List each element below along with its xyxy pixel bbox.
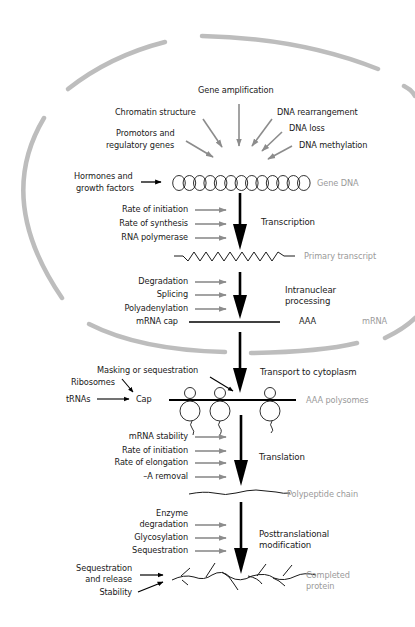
membrane-arc-bottom-right — [385, 318, 415, 338]
label-rate-of-initiation: Rate of initiation — [122, 204, 188, 215]
stage-mrna: mRNA — [362, 316, 387, 327]
arrow-promotors — [186, 141, 213, 157]
ribosomes — [180, 388, 280, 437]
stage-primary-transcript: Primary transcript — [304, 251, 376, 262]
stage-completed-protein-2: protein — [306, 581, 334, 592]
label-rate-of-synthesis: Rate of synthesis — [119, 218, 188, 229]
arrow-ribosomes — [122, 379, 133, 392]
label-rate-of-elongation: Rate of elongation — [115, 457, 188, 468]
label-sequestration-protein: Sequestration — [76, 563, 132, 574]
label-aaa-tail: AAA — [299, 316, 316, 327]
label-dna-loss: DNA loss — [289, 123, 325, 134]
label-mrna-stability: mRNA stability — [129, 431, 188, 442]
process-transcription: Transcription — [261, 217, 315, 228]
arrowhead-translation — [234, 460, 248, 486]
ribosome-1-large — [180, 401, 200, 421]
process-posttranslational-1: Posttranslational — [259, 529, 329, 540]
polypeptide-chain — [189, 490, 290, 495]
ribosome-1-peptide — [191, 421, 194, 435]
process-posttranslational-2: modification — [259, 540, 311, 551]
membrane-arc-bottom-middle — [251, 343, 357, 353]
membrane-arc-bottom-left — [89, 324, 225, 352]
ribosome-1-small — [185, 388, 196, 399]
label-splicing: Splicing — [157, 289, 188, 300]
transport-arrows — [97, 377, 233, 399]
process-transport: Transport to cytoplasm — [260, 367, 357, 378]
label-promotors: Promotors and — [116, 128, 175, 139]
stage-polypeptide-chain: Polypeptide chain — [287, 489, 358, 500]
arrow-dna-rearrangement — [252, 119, 272, 146]
label-chromatin-structure: Chromatin structure — [115, 107, 196, 118]
label-sequestration: Sequestration — [132, 545, 188, 556]
label-regulatory-genes: regulatory genes — [106, 140, 174, 151]
main-flow-arrows — [233, 193, 248, 574]
arrow-dna-loss — [262, 132, 282, 151]
gene-dna-helix — [173, 176, 310, 191]
label-ribosomes: Ribosomes — [71, 377, 115, 388]
membrane-arc-left — [23, 118, 62, 298]
arrow-stability — [138, 582, 163, 592]
ribosome-3-large — [260, 401, 280, 421]
label-rna-polymerase: RNA polymerase — [121, 232, 188, 243]
label-mrna-cap: mRNA cap — [136, 316, 178, 327]
label-and-release: and release — [85, 574, 132, 585]
ribosome-2-small — [215, 388, 226, 399]
label-gene-amplification: Gene amplification — [198, 85, 274, 96]
membrane-arc-top — [202, 36, 378, 69]
process-intranuclear-1: Intranuclear — [285, 285, 336, 296]
stage-gene-dna: Gene DNA — [317, 178, 358, 189]
label-growth-factors: growth factors — [76, 183, 134, 194]
ribosome-2-peptide — [219, 421, 222, 436]
label-enzyme: Enzyme — [156, 508, 188, 519]
arrowhead-posttranslational — [234, 548, 248, 574]
process-intranuclear-2: processing — [285, 296, 330, 307]
label-glycosylation: Glycosylation — [134, 532, 188, 543]
membrane-arc-top-left — [68, 42, 165, 89]
label-degradation-enzyme: degradation — [139, 519, 188, 530]
stage-polysomes: AAA polysomes — [306, 395, 368, 406]
protein-arrows — [138, 575, 163, 592]
label-a-removal: –A removal — [143, 471, 188, 482]
arrowhead-intranuclear — [233, 295, 247, 319]
completed-protein — [172, 563, 316, 590]
label-rate-of-initiation-translation: Rate of initiation — [122, 445, 188, 456]
ribosome-3-small — [265, 388, 276, 399]
label-dna-methylation: DNA methylation — [299, 140, 367, 151]
process-translation: Translation — [259, 452, 305, 463]
label-cap: Cap — [136, 394, 152, 405]
arrow-dna-methylation — [268, 146, 292, 159]
arrowhead-transcription — [233, 224, 247, 250]
ribosome-3-peptide — [271, 421, 273, 433]
label-hormones: Hormones and — [74, 171, 133, 182]
nuclear-membrane — [23, 36, 415, 353]
label-stability: Stability — [99, 587, 132, 598]
primary-transcript-zigzag — [174, 252, 295, 261]
membrane-arc-top-right — [404, 86, 415, 96]
label-polyadenylation: Polyadenylation — [124, 303, 188, 314]
stage-completed-protein-1: Completed — [306, 570, 350, 581]
label-dna-rearrangement: DNA rearrangement — [277, 107, 358, 118]
label-degradation: Degradation — [138, 276, 188, 287]
arrowhead-transport — [233, 368, 247, 393]
label-masking: Masking or sequestration — [97, 365, 198, 376]
arrow-chromatin-structure — [203, 119, 222, 147]
ribosome-2-large — [210, 401, 230, 421]
label-trnas: tRNAs — [66, 394, 90, 405]
